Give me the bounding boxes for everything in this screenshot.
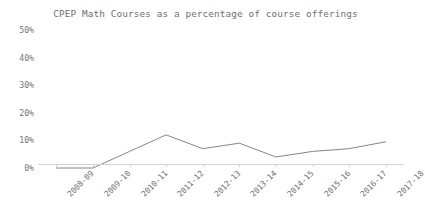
x-axis-tick-label: 2009-10 [103, 169, 133, 199]
x-axis-tick-mark [386, 164, 387, 167]
x-axis-tick-mark [313, 164, 314, 167]
x-axis-tick-mark [56, 164, 57, 167]
x-axis-tick-label: 2015-16 [322, 169, 352, 199]
x-axis-tick-label: 2013-14 [249, 169, 279, 199]
x-axis-tick-label: 2008-09 [66, 169, 96, 199]
y-axis-tick-label: 50% [0, 26, 34, 34]
y-axis-tick-label: 20% [0, 109, 34, 117]
x-axis-tick-mark [276, 164, 277, 167]
x-axis-tick-mark [93, 164, 94, 167]
x-axis-tick-mark [349, 164, 350, 167]
x-axis-tick-mark [166, 164, 167, 167]
x-axis-tick-label: 2010-11 [139, 169, 169, 199]
chart-title: CPEP Math Courses as a percentage of cou… [0, 8, 411, 20]
x-axis-tick-mark [130, 164, 131, 167]
x-axis: 2008-092009-102010-112011-122012-132013-… [38, 164, 404, 212]
y-axis-tick-label: 10% [0, 136, 34, 144]
y-axis-tick-label: 30% [0, 81, 34, 89]
x-axis-tick-mark [239, 164, 240, 167]
x-axis-tick-mark [203, 164, 204, 167]
x-axis-tick-label: 2012-13 [212, 169, 242, 199]
x-axis-tick-label: 2014-15 [286, 169, 316, 199]
x-axis-tick-label: 2011-12 [176, 169, 206, 199]
line-series-svg [38, 30, 404, 168]
x-axis-tick-label: 2016-17 [359, 169, 389, 199]
y-axis-tick-label: 0% [0, 164, 34, 172]
plot-area [38, 30, 404, 168]
y-axis: 0%10%20%30%40%50% [0, 30, 34, 168]
y-axis-tick-label: 40% [0, 54, 34, 62]
x-axis-tick-label: 2017-18 [395, 169, 425, 199]
